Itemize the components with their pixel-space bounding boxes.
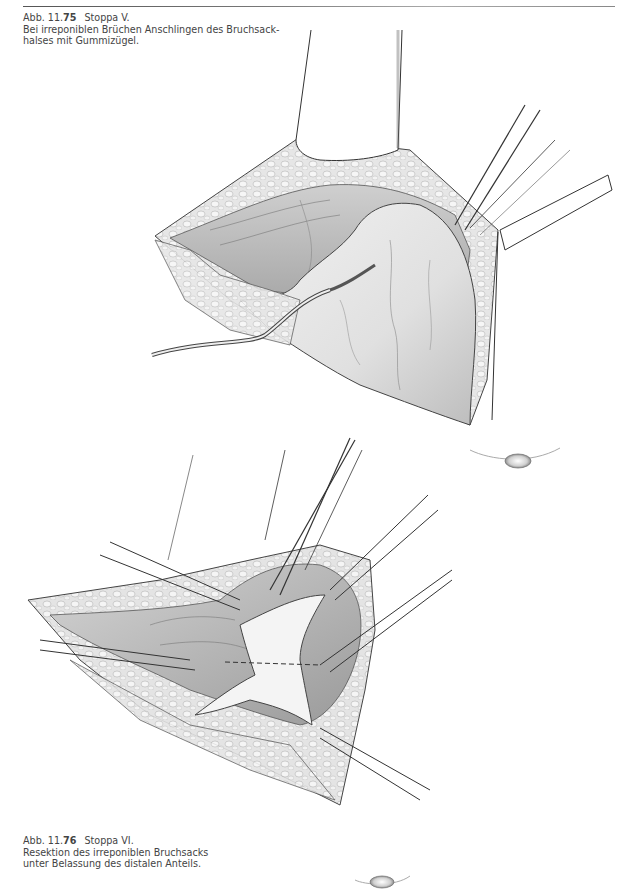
figure-label-prefix: Abb. 11. [23,835,63,846]
figure-description-line-2: unter Belassung des distalen Anteils. [23,858,283,870]
figure-title: Stoppa VI. [84,835,133,846]
surgical-illustration-stoppa-vi [0,0,628,892]
figure-caption-76: Abb. 11.76Stoppa VI. Resektion des irrep… [23,835,283,870]
figure-number: 76 [63,835,76,846]
thread-line [168,455,193,560]
umbilicus-bottom [355,876,410,888]
figure-description-line-1: Resektion des irreponiblen Bruchsacks [23,847,283,859]
